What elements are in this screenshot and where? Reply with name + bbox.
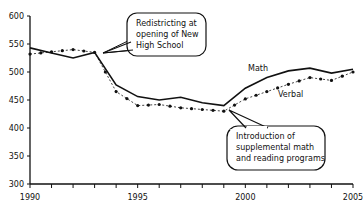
x-tick-label: 1990 (20, 193, 40, 202)
callout-programs-line-2: supplemental math (236, 143, 314, 152)
line-chart: 300350400450500550600 1990199520002005 M… (0, 0, 363, 212)
y-tick-label: 300 (9, 180, 24, 189)
y-tick-label: 550 (9, 40, 24, 49)
y-tick-label: 350 (9, 152, 24, 161)
x-axis: 1990199520002005 (20, 184, 363, 202)
y-tick-label: 500 (9, 68, 24, 77)
callout-redistricting: Redistricting at opening of New High Sch… (103, 13, 206, 56)
y-tick-label: 450 (9, 96, 24, 105)
callout-redistricting-line-1: Redistricting at (136, 19, 197, 28)
verbal-series-label: Verbal (278, 90, 303, 99)
callout-programs: Introduction of supplemental math and re… (227, 110, 325, 170)
x-tick-label: 2000 (235, 193, 255, 202)
callout-programs-line-1: Introduction of (236, 132, 295, 141)
callout-programs-line-3: and reading programs (236, 154, 325, 163)
callout-redistricting-line-2: opening of New (136, 30, 199, 39)
x-tick-label: 2005 (343, 193, 363, 202)
callout-redistricting-line-3: High School (136, 41, 184, 50)
y-tick-label: 600 (9, 12, 24, 21)
x-tick-label: 1995 (127, 193, 147, 202)
y-axis: 300350400450500550600 (9, 12, 30, 189)
math-series-label: Math (248, 64, 268, 73)
verbal-series-line (30, 50, 353, 112)
y-tick-label: 400 (9, 124, 24, 133)
